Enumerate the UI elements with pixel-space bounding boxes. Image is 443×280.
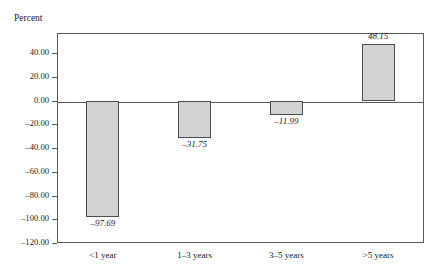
bar (178, 101, 211, 139)
y-axis-tick-label: 20.00 (30, 71, 49, 82)
y-axis-tick-mark (52, 124, 57, 125)
y-axis-tick-mark (52, 243, 57, 244)
bar (362, 44, 395, 101)
y-axis-tick-mark (52, 196, 57, 197)
y-axis-tick-mark (52, 101, 57, 102)
y-axis-title: Percent (14, 13, 43, 24)
y-axis-tick-mark (52, 53, 57, 54)
y-axis-tick-label: –120.00 (21, 237, 49, 248)
x-axis-category-label: <1 year (58, 250, 148, 261)
y-axis-tick-label: 40.00 (30, 47, 49, 58)
bar-value-label: –11.99 (246, 116, 326, 127)
x-axis-category-label: 3–5 years (241, 250, 331, 261)
bar-chart: Percent 40.0020.000.00–20.00–40.00–60.00… (0, 0, 443, 280)
y-axis-tick-label: –100.00 (21, 213, 49, 224)
y-axis-tick-mark (52, 148, 57, 149)
bar-value-label: –97.69 (63, 218, 143, 229)
y-axis-tick-label: –60.00 (25, 166, 49, 177)
bar (270, 101, 303, 115)
y-axis-tick-mark (52, 219, 57, 220)
y-axis-tick-mark (52, 77, 57, 78)
y-axis-tick-label: –20.00 (25, 118, 49, 129)
y-axis-tick-mark (52, 172, 57, 173)
bar (86, 101, 119, 217)
y-axis-tick-label: 0.00 (34, 95, 49, 106)
bar-value-label: 48.15 (338, 31, 418, 42)
bar-value-label: –31.75 (155, 139, 235, 150)
y-axis-tick-label: –40.00 (25, 142, 49, 153)
x-axis-category-label: >5 years (333, 250, 423, 261)
y-axis-tick-label: –80.00 (25, 190, 49, 201)
x-axis-category-label: 1–3 years (150, 250, 240, 261)
